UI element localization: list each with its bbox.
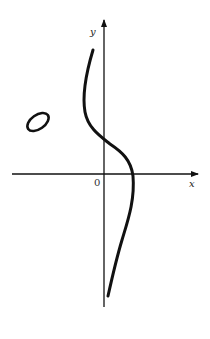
x-axis-label: x	[189, 178, 195, 189]
main-branch-curve	[84, 50, 133, 296]
oval-curve	[24, 109, 52, 134]
origin-label: 0	[94, 177, 100, 188]
curve-diagram: y x 0	[0, 0, 210, 339]
y-axis-label: y	[89, 26, 96, 37]
